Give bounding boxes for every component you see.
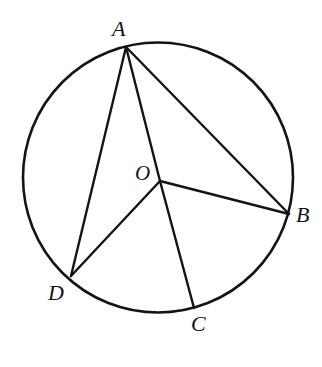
segment-o-c [160,181,194,308]
segment-o-d [71,181,160,276]
vertex-label-o: O [135,163,150,184]
geometry-diagram: A B C D O [0,0,322,367]
segment-a-b [126,47,289,214]
vertex-label-c: C [191,313,206,335]
geometry-canvas [0,0,322,367]
vertex-label-d: D [48,282,64,304]
segment-o-b [160,181,289,214]
vertex-label-b: B [296,204,309,226]
vertex-label-a: A [112,18,125,40]
segment-a-d [71,47,126,276]
